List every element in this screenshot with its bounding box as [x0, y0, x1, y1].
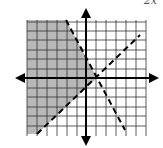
- arrow-left-icon: [15, 73, 25, 83]
- arrow-right-icon: [149, 73, 159, 83]
- arrow-up-icon: [81, 8, 91, 18]
- arrow-down-icon: [81, 136, 91, 146]
- coordinate-plane: [0, 0, 163, 148]
